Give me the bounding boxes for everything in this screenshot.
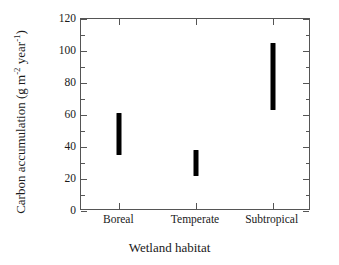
- y-axis-major-tick-right: [303, 19, 309, 20]
- y-axis-tick-label: 40: [65, 141, 77, 153]
- y-axis-minor-tick-right: [306, 163, 310, 164]
- y-axis-tick-label: 0: [70, 205, 76, 217]
- y-axis-major-tick-right: [303, 179, 309, 180]
- y-axis-minor-tick: [81, 99, 85, 100]
- y-axis-major-tick: [81, 179, 87, 180]
- x-axis-tick: [119, 203, 120, 209]
- range-bar-subtropical: [270, 43, 275, 110]
- y-axis-major-tick: [81, 147, 87, 148]
- y-axis-minor-tick-right: [306, 195, 310, 196]
- x-axis-tick-top: [196, 19, 197, 25]
- y-axis-title-suffix: ): [13, 30, 28, 34]
- x-axis-title: Wetland habitat: [0, 240, 339, 256]
- y-axis-minor-tick-right: [306, 99, 310, 100]
- range-bar-boreal: [117, 113, 122, 155]
- y-axis-minor-tick: [81, 67, 85, 68]
- y-axis-minor-tick-right: [306, 67, 310, 68]
- y-axis-title-sup-m: -2: [12, 67, 22, 74]
- y-axis-tick-label: 60: [65, 109, 77, 121]
- y-axis-minor-tick: [81, 35, 85, 36]
- y-axis-tick-label: 80: [65, 77, 77, 89]
- y-axis-major-tick-right: [303, 51, 309, 52]
- y-axis-major-tick-right: [303, 83, 309, 84]
- y-axis-minor-tick: [81, 195, 85, 196]
- y-axis-title-middle: year: [13, 42, 28, 68]
- y-axis-major-tick-right: [303, 211, 309, 212]
- y-axis-title-prefix: Carbon accumulation (g m: [13, 75, 28, 214]
- y-axis-minor-tick: [81, 131, 85, 132]
- x-axis-tick-top: [273, 19, 274, 25]
- y-axis-title-sup-year: -1: [12, 35, 22, 42]
- y-axis-major-tick: [81, 115, 87, 116]
- y-axis-minor-tick-right: [306, 131, 310, 132]
- plot-area: 020406080100120: [80, 18, 310, 210]
- y-axis-tick-label: 120: [59, 13, 76, 25]
- x-axis-tick: [196, 203, 197, 209]
- x-axis-tick-top: [119, 19, 120, 25]
- y-axis-major-tick: [81, 19, 87, 20]
- y-axis-tick-label: 20: [65, 173, 77, 185]
- y-axis-major-tick: [81, 51, 87, 52]
- x-axis-category-label: Boreal: [103, 214, 134, 226]
- x-axis-category-label: Subtropical: [245, 214, 298, 226]
- y-axis-tick-label: 100: [59, 45, 76, 57]
- y-axis-major-tick: [81, 83, 87, 84]
- range-bar-temperate: [194, 150, 199, 176]
- y-axis-title: Carbon accumulation (g m-2 year-1): [13, 22, 29, 222]
- y-axis-major-tick-right: [303, 147, 309, 148]
- y-axis-major-tick: [81, 211, 87, 212]
- y-axis-minor-tick-right: [306, 35, 310, 36]
- x-axis-tick: [273, 203, 274, 209]
- y-axis-minor-tick: [81, 163, 85, 164]
- chart-figure: 020406080100120 Carbon accumulation (g m…: [0, 0, 339, 265]
- x-axis-category-label: Temperate: [171, 214, 219, 226]
- y-axis-major-tick-right: [303, 115, 309, 116]
